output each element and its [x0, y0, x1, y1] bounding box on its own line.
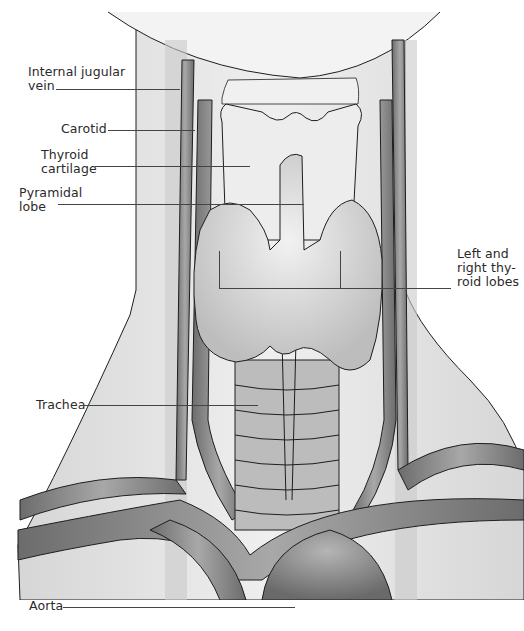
- thyroid-anatomy-illustration: [0, 0, 524, 631]
- leader-internal-jugular-vein: [56, 89, 180, 90]
- label-trachea: Trachea: [36, 398, 85, 412]
- label-carotid: Carotid: [61, 122, 107, 136]
- leader-thyroid-lobes-left-tick: [219, 251, 220, 288]
- label-pyramidal-lobe: Pyramidal lobe: [19, 186, 82, 214]
- leader-thyroid-cartilage: [95, 166, 250, 167]
- leader-carotid: [108, 130, 195, 131]
- hyoid: [222, 78, 359, 104]
- leader-thyroid-lobes-right-tick: [340, 251, 341, 288]
- leader-aorta: [63, 607, 295, 608]
- leader-thyroid-lobes: [219, 288, 451, 289]
- label-thyroid-lobes: Left and right thy- roid lobes: [457, 247, 519, 289]
- trachea-rings: [235, 360, 339, 530]
- label-thyroid-cartilage: Thyroid cartilage: [41, 148, 97, 176]
- leader-trachea: [80, 405, 258, 406]
- leader-pyramidal-lobe: [58, 204, 304, 205]
- label-aorta: Aorta: [29, 599, 63, 613]
